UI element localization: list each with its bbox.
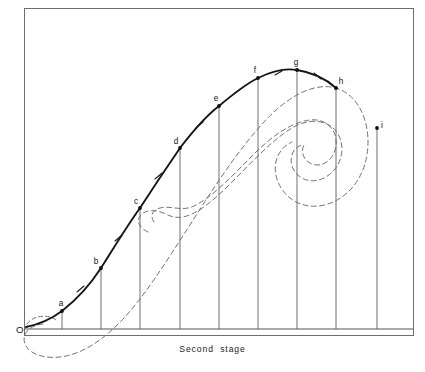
data-point-h xyxy=(334,86,338,90)
data-point-d xyxy=(178,146,182,150)
curve-tickmark xyxy=(196,122,203,128)
data-point-a xyxy=(60,309,64,313)
point-label-d: d xyxy=(174,137,179,146)
point-label-g: g xyxy=(294,58,299,67)
point-label-a: a xyxy=(59,299,64,308)
point-label-b: b xyxy=(94,257,99,266)
curve-tickmark xyxy=(314,73,321,79)
data-point-c xyxy=(138,206,142,210)
data-point-markers-group xyxy=(60,68,379,313)
curve-tickmarks-group xyxy=(77,71,321,292)
data-point-f xyxy=(256,76,260,80)
data-point-b xyxy=(99,266,103,270)
curve-tickmark xyxy=(235,88,242,93)
point-label-h: h xyxy=(339,77,344,86)
origin-label: O xyxy=(16,324,23,335)
wave-profile-diagram: a b c d e f g h i O xyxy=(0,0,425,372)
figure-caption: Second stage xyxy=(0,344,425,354)
point-label-i: i xyxy=(381,121,383,130)
figure-container: a b c d e f g h i O Second stage xyxy=(0,0,425,372)
data-point-e xyxy=(217,104,221,108)
data-point-i xyxy=(375,126,379,130)
point-label-e: e xyxy=(214,94,219,103)
point-labels-group: a b c d e f g h i xyxy=(59,58,383,308)
data-point-g xyxy=(295,68,299,72)
middle-dashed-spiral-curve xyxy=(138,121,342,232)
point-label-f: f xyxy=(254,66,257,75)
point-label-c: c xyxy=(134,197,138,206)
